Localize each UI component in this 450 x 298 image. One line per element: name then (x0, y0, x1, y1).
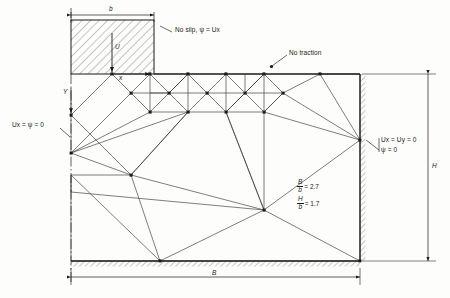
label-no-slip-bc: No slip, ψ = Ux (175, 26, 220, 33)
label-axis-x: x (119, 74, 122, 81)
right-wall (360, 74, 366, 261)
ratio-0-value: = 2.7 (303, 183, 319, 190)
ratio-1-value: = 1.7 (304, 200, 320, 207)
label-punch-width-b: b (109, 5, 113, 12)
label-domain-height-H: H (432, 162, 437, 169)
label-axis-y: Y (63, 88, 67, 95)
finite-element-mesh (71, 74, 360, 261)
label-left-bc: Ux = ψ = 0 (12, 121, 44, 128)
ratio-H-over-b: H b = 1.7 (297, 196, 319, 211)
ratio-B-over-b: B b = 2.7 (297, 179, 319, 194)
punch-block (71, 20, 154, 74)
label-right-bc-line1: Ux = Uy = 0 (381, 136, 416, 143)
figure-canvas: b U x Y No slip, ψ = Ux No traction Ux =… (0, 0, 450, 298)
label-no-traction-bc: No traction (289, 49, 322, 56)
dimension-H (362, 74, 436, 261)
label-domain-width-B: B (212, 269, 216, 276)
label-right-bc-line2: ψ = 0 (381, 146, 397, 153)
label-velocity-U: U (115, 43, 120, 50)
bottom-wall (71, 261, 360, 267)
ratio-1-denominator: b (297, 204, 304, 211)
